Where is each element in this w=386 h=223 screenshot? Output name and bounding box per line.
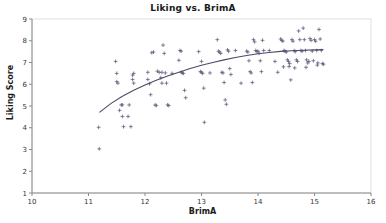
x-tick-label: 13 [197, 198, 206, 206]
y-tick-label: 4 [23, 124, 28, 132]
data-point-marker [115, 71, 119, 75]
data-point-marker [165, 81, 169, 85]
data-point-marker [261, 38, 265, 42]
y-tick-label: 1 [23, 190, 27, 198]
data-point-marker [304, 65, 308, 69]
data-point-marker [215, 38, 219, 42]
x-tick-label: 16 [367, 198, 376, 206]
data-point-marker [282, 65, 286, 69]
x-tick-label: 15 [310, 198, 319, 206]
data-point-marker [160, 81, 164, 85]
data-point-marker [287, 65, 291, 69]
data-point-marker [183, 88, 187, 92]
data-point-marker [129, 125, 133, 129]
y-tick-label: 8 [23, 37, 27, 45]
data-point-marker [259, 70, 263, 74]
y-tick-label: 9 [23, 16, 27, 24]
data-point-marker [163, 71, 167, 75]
data-point-marker [250, 81, 254, 85]
data-points [97, 26, 326, 151]
data-point-marker [301, 26, 305, 30]
data-point-marker [311, 59, 315, 63]
data-point-marker [122, 125, 126, 129]
data-point-marker [258, 59, 262, 63]
x-tick-label: 11 [84, 198, 93, 206]
data-point-marker [200, 60, 204, 64]
data-point-marker [184, 96, 188, 100]
trend-line [100, 49, 323, 112]
data-point-marker [289, 78, 293, 82]
data-point-marker [262, 49, 266, 53]
data-point-marker [228, 67, 232, 71]
data-point-marker [223, 98, 227, 102]
data-point-marker [222, 81, 226, 85]
data-point-marker [162, 51, 166, 55]
y-tick-label: 6 [23, 81, 28, 89]
data-point-marker [297, 29, 301, 33]
data-point-marker [161, 43, 165, 47]
y-tick-label: 7 [23, 59, 27, 67]
data-point-marker [273, 60, 277, 64]
data-point-marker [317, 28, 321, 32]
data-point-marker [114, 60, 118, 64]
chart-container: Liking vs. BrimA Liking Score BrimA 1234… [0, 0, 386, 223]
data-point-marker [146, 70, 150, 74]
data-point-marker [202, 86, 206, 90]
y-axis-ticks: 123456789 [23, 16, 32, 198]
data-point-marker [229, 73, 233, 77]
data-point-marker [298, 38, 302, 42]
data-point-marker [146, 78, 150, 82]
data-point-marker [247, 59, 251, 63]
y-tick-label: 2 [23, 168, 27, 176]
y-tick-label: 5 [23, 103, 27, 111]
data-point-marker [97, 125, 101, 129]
data-point-marker [121, 115, 125, 119]
data-point-marker [208, 71, 212, 75]
data-point-marker [276, 70, 280, 74]
data-point-marker [149, 93, 153, 97]
data-point-marker [131, 78, 135, 82]
data-point-marker [197, 50, 201, 54]
data-point-marker [318, 37, 322, 41]
data-point-marker [160, 70, 164, 74]
y-tick-label: 3 [23, 146, 27, 154]
scatter-plot: 123456789 10111213141516 [0, 0, 386, 223]
data-point-marker [302, 38, 306, 42]
data-point-marker [239, 81, 243, 85]
trend-line-path [100, 49, 323, 112]
x-axis-ticks: 10111213141516 [28, 193, 376, 206]
data-point-marker [234, 49, 238, 53]
data-point-marker [126, 115, 130, 119]
x-tick-label: 14 [254, 198, 263, 206]
data-point-marker [177, 58, 181, 62]
data-point-marker [118, 108, 122, 112]
data-point-marker [97, 147, 101, 151]
data-point-marker [316, 61, 320, 65]
data-point-marker [224, 102, 228, 106]
data-point-marker [202, 120, 206, 124]
x-tick-label: 12 [141, 198, 150, 206]
x-tick-label: 10 [28, 198, 37, 206]
data-point-marker [127, 103, 131, 107]
plot-frame [32, 19, 371, 193]
data-point-marker [315, 63, 319, 67]
data-point-marker [132, 81, 136, 85]
data-point-marker [293, 66, 297, 70]
